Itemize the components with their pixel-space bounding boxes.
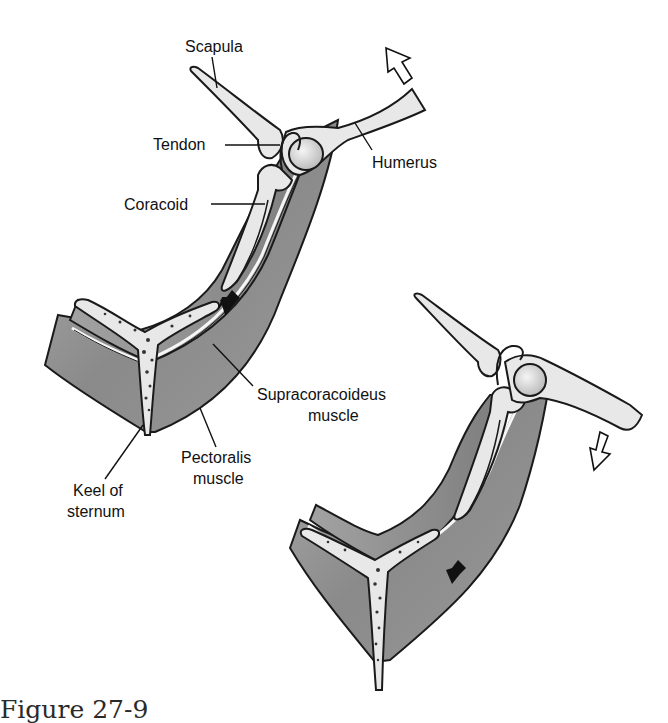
- scapula-lower: [414, 294, 500, 377]
- label-keel-1: Keel of: [73, 482, 123, 499]
- label-pectoralis-2: muscle: [193, 470, 244, 487]
- leader-keel: [105, 425, 143, 479]
- lower-panel: [290, 294, 642, 690]
- label-tendon: Tendon: [153, 136, 206, 153]
- upper-panel: [45, 48, 425, 435]
- label-keel-2: sternum: [67, 503, 125, 520]
- label-supracoracoideus-1: Supracoracoideus: [257, 386, 386, 403]
- wing-downstroke-arrow: [590, 432, 610, 470]
- label-pectoralis-1: Pectoralis: [181, 449, 251, 466]
- label-scapula: Scapula: [185, 38, 243, 55]
- wing-upstroke-arrow: [386, 48, 412, 84]
- figure-caption: Figure 27-9: [0, 695, 148, 723]
- label-humerus: Humerus: [372, 154, 437, 171]
- humeral-head-lower: [514, 364, 546, 396]
- label-supracoracoideus-2: muscle: [308, 407, 359, 424]
- bird-flight-muscle-diagram: Scapula Tendon Humerus Coracoid Supracor…: [0, 0, 668, 723]
- humeral-head-upper: [289, 138, 323, 170]
- leader-pectoralis: [200, 408, 216, 447]
- label-coracoid: Coracoid: [124, 196, 188, 213]
